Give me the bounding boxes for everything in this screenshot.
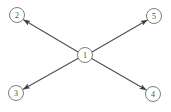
node-3: 3 [9,86,24,101]
edge-1-to-4 [92,58,147,90]
node-4: 4 [146,87,161,102]
node-5-label: 5 [152,12,156,21]
edge-1-to-5 [92,20,147,52]
node-1-label: 1 [83,51,87,60]
node-1: 1 [78,48,93,63]
node-5: 5 [147,9,162,24]
node-2-label: 2 [15,11,19,20]
node-4-label: 4 [151,90,155,99]
edge-1-to-2 [24,20,79,52]
graph-canvas: 1 2 5 3 4 [0,0,171,112]
edge-1-to-3 [23,58,78,89]
node-3-label: 3 [14,89,18,98]
node-2: 2 [10,8,25,23]
nodes-group: 1 2 5 3 4 [9,8,162,102]
graph-diagram: 1 2 5 3 4 [0,0,171,112]
